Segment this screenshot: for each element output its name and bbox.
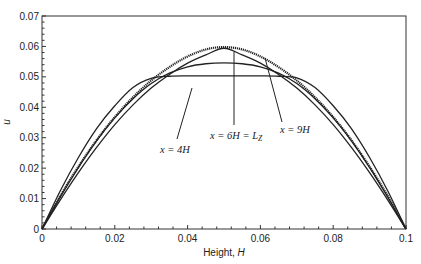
x-tick-label: 0.1 xyxy=(399,233,413,244)
y-axis-tick-labels: 00.010.020.030.040.050.060.07 xyxy=(20,11,40,235)
annotation-leader-line xyxy=(177,88,192,139)
y-tick-label: 0.03 xyxy=(20,132,40,143)
y-tick-label: 0.01 xyxy=(20,193,40,204)
x-tick-label: 0.08 xyxy=(323,233,343,244)
x-tick-label: 0.04 xyxy=(178,233,198,244)
y-tick-label: 0.06 xyxy=(20,41,40,52)
y-tick-label: 0 xyxy=(33,224,39,235)
y-tick-label: 0.07 xyxy=(20,11,40,22)
x-axis-title: Height, H xyxy=(203,247,245,258)
annotation-label: x = 4H xyxy=(159,144,191,155)
curve-inlet-flat-profile- xyxy=(42,76,406,229)
x-tick-label: 0.02 xyxy=(105,233,125,244)
x-axis-ticks xyxy=(42,225,406,229)
x-axis-tick-labels: 00.020.040.060.080.1 xyxy=(39,233,413,244)
y-axis-title: u xyxy=(1,119,12,125)
y-tick-label: 0.04 xyxy=(20,102,40,113)
annotation-label: x = 9H xyxy=(279,124,311,135)
annotations: x = 4Hx = 6H = LZx = 9H xyxy=(159,52,311,155)
velocity-profile-chart: 00.020.040.060.080.1 00.010.020.030.040.… xyxy=(0,0,421,264)
y-tick-label: 0.02 xyxy=(20,163,40,174)
y-axis-ticks xyxy=(42,16,46,229)
x-tick-label: 0 xyxy=(39,233,45,244)
annotation-label: x = 6H = LZ xyxy=(209,130,263,143)
x-tick-label: 0.06 xyxy=(251,233,271,244)
y-tick-label: 0.05 xyxy=(20,71,40,82)
curve-x-4h xyxy=(42,63,406,229)
